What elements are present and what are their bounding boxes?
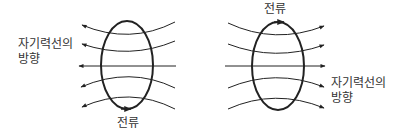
field-line-arrow-icon <box>82 97 175 109</box>
right-field-lines <box>225 23 325 109</box>
left-field-lines <box>79 22 176 109</box>
left-loop-diagram <box>79 21 176 109</box>
field-label-line1: 자기력선의 <box>331 76 386 91</box>
field-line-arrow-icon <box>228 23 324 35</box>
field-line-arrow-icon <box>82 41 175 51</box>
field-line-arrow-icon <box>82 22 175 34</box>
diagram-canvas <box>0 0 398 136</box>
left-field-direction-label: 자기력선의 방향 <box>18 37 73 67</box>
field-label-line2: 방향 <box>331 91 386 106</box>
field-line-arrow-icon <box>228 98 324 109</box>
right-current-label: 전류 <box>264 2 286 17</box>
right-loop-diagram <box>225 22 325 110</box>
field-line-arrow-icon <box>228 44 324 53</box>
right-field-direction-label: 자기력선의 방향 <box>331 76 386 106</box>
field-line-arrow-icon <box>81 77 175 88</box>
field-label-line1: 자기력선의 <box>18 37 73 52</box>
field-line-arrow-icon <box>228 78 324 88</box>
left-current-label: 전류 <box>117 116 139 131</box>
field-label-line2: 방향 <box>18 52 73 67</box>
